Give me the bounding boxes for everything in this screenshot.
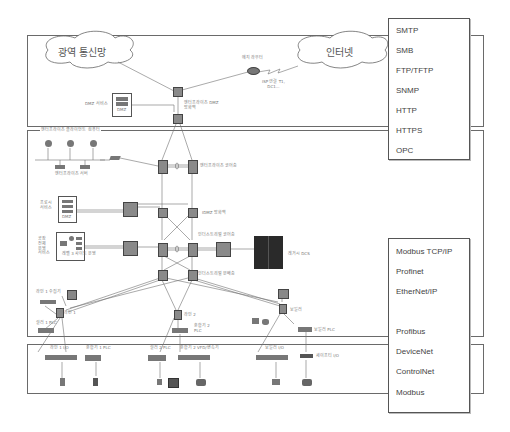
plc-icon: [298, 327, 312, 332]
line2-label: 라인 2: [184, 313, 196, 318]
boiler-hmi-icon: [278, 289, 289, 299]
protocol-controlnet: ControlNet: [396, 367, 434, 376]
protocol-ftp: FTP/TFTP: [396, 66, 433, 75]
boiler-label: 보일러: [290, 308, 302, 313]
server-icon: [55, 165, 65, 169]
server-icon: [62, 200, 73, 203]
server-icon: [116, 102, 128, 106]
color2-plc-label: 컬러 2 PLC: [150, 346, 171, 351]
computer-icon: [90, 140, 97, 147]
proxy-dmz-label: DMZ: [62, 215, 71, 220]
protocol-snmp: SNMP: [396, 86, 419, 95]
industrial-core-switch-icon: [188, 243, 198, 257]
boiler-io-label: 보일러 I/O: [265, 346, 284, 351]
protocol-devicenet: DeviceNet: [396, 347, 433, 356]
legacy-dcs-cabinet: [254, 236, 283, 269]
drive-icon: [93, 378, 98, 386]
pipe-valve-icon: [272, 379, 280, 385]
workstation-icon: [60, 241, 67, 246]
protocol-profibus: Profibus: [396, 327, 425, 336]
plant-ops-label: 공장 전체 운영 서비스: [38, 237, 50, 256]
protocol-smb: SMB: [396, 46, 413, 55]
mixer1-plc-label: 혼합기 1 PLC: [86, 346, 111, 351]
line1-plc-label: 컬러 1 PLC: [36, 321, 57, 326]
it-protocols-box: SMTP SMB FTP/TFTP SNMP HTTP HTTPS OPC: [388, 18, 470, 160]
line1-collector-label: 라인 1 수집기: [36, 290, 61, 295]
dmz-box-label: DMZ: [117, 108, 126, 113]
io-module-icon: [300, 354, 313, 358]
tank-io-label: 세이프티 I/O: [316, 354, 339, 359]
dmz-firewall-upper-icon: [173, 87, 183, 97]
io-module-icon: [178, 355, 210, 360]
mixer2-plc-label: 혼합기 2 PLC: [194, 324, 210, 334]
edge-router-label: 에지 라우터: [242, 56, 263, 61]
plc-icon: [85, 355, 101, 361]
dmz-service-label: DMZ 서비스: [85, 102, 108, 107]
line1-collector-icon: [67, 290, 77, 300]
monitor-icon: [168, 378, 179, 388]
level3-site-ops-label: 레벨 3 사이트 운영: [62, 252, 96, 257]
proxy-service-label: 프로시 서비스: [40, 201, 52, 211]
industrial-core-label: 인더스트리얼 코어층: [198, 233, 235, 238]
proxy-server-box: DMZ: [58, 196, 77, 223]
firewall-cube-icon: [216, 242, 231, 257]
firewall-cube-icon: [123, 241, 138, 256]
core-switch-icon: [158, 160, 168, 174]
server-icon: [116, 97, 128, 101]
motor-icon: [196, 379, 206, 386]
industrial-core-switch-icon: [158, 243, 168, 257]
wan-cloud-label: 광역 통신망: [58, 44, 106, 59]
ot-protocols-box: Modbus TCP/IP Profinet EtherNet/IP Profi…: [388, 238, 470, 413]
protocol-opc: OPC: [396, 146, 413, 155]
plc-icon: [148, 355, 166, 361]
io-module-icon: [256, 355, 288, 360]
server-icon: [76, 237, 82, 240]
enterprise-servers-label: 엔터프라이즈 서버: [55, 172, 88, 177]
computer-icon: [69, 236, 74, 241]
server-icon: [62, 205, 73, 208]
edge-router-icon: [247, 67, 260, 75]
dmz-server-box: DMZ: [112, 93, 132, 117]
computer-icon: [45, 140, 52, 147]
boiler-plc-label: 보일러 PLC: [314, 328, 335, 333]
workstation-icon: [252, 318, 259, 324]
internet-cloud-label: 인터넷: [326, 44, 353, 59]
cabinet-door-divider: [268, 236, 269, 269]
hub-icon: [109, 156, 120, 160]
plc-icon: [172, 328, 188, 333]
legacy-dcs-label: 레거시 DCS: [288, 252, 310, 257]
line1-switch-icon: [56, 308, 64, 318]
protocol-modbus: Modbus: [396, 388, 424, 397]
enterprise-dmz-firewall-label: 엔터프라이즈 DMZ 방화벽: [184, 101, 219, 111]
computer-icon: [67, 140, 74, 147]
enterprise-core-label: 엔터프라이즈 코어층: [200, 164, 237, 169]
distribution-switch-icon: [188, 270, 198, 281]
protocol-smtp: SMTP: [396, 26, 418, 35]
industrial-dist-label: 인더스트리얼 분배층: [198, 272, 235, 277]
protocol-ethernet-ip: EtherNet/IP: [396, 287, 437, 296]
protocol-http: HTTP: [396, 106, 417, 115]
isp-label: ISP 연결 T1, DC1...: [262, 80, 285, 90]
line2-switch-icon: [174, 310, 182, 320]
operator-icon: [262, 319, 269, 325]
line1-label: 라인 1: [64, 311, 76, 316]
dmz-firewall-lower-icon: [173, 114, 183, 124]
robot-arm-icon: [60, 378, 65, 386]
idmz-firewall-label: IDMZ 방화벽: [202, 211, 226, 216]
boiler-switch-icon: [279, 304, 287, 314]
enterprise-zone-label: 엔터프라이즈 클라이언트 컴퓨터: [40, 128, 101, 133]
server-icon: [76, 242, 82, 245]
motor-icon: [302, 379, 312, 386]
io-module-icon: [45, 355, 77, 360]
protocol-profinet: Profinet: [396, 267, 424, 276]
plc-icon: [38, 328, 54, 333]
idmz-firewall-icon: [158, 208, 168, 218]
idmz-firewall-icon: [188, 208, 198, 218]
server-icon: [76, 247, 82, 250]
valve-icon: [157, 379, 162, 385]
core-switch-icon: [188, 160, 198, 174]
rack-icon: [40, 300, 56, 304]
protocol-https: HTTPS: [396, 126, 422, 135]
server-icon: [62, 210, 73, 213]
distribution-switch-icon: [158, 270, 168, 281]
